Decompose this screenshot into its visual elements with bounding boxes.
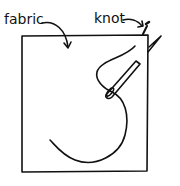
knot-arrow — [123, 19, 142, 26]
knot — [143, 26, 147, 34]
needle-back — [148, 36, 161, 52]
thread — [50, 46, 135, 162]
embroidery-diagram — [0, 0, 180, 186]
fabric-square — [22, 35, 148, 172]
